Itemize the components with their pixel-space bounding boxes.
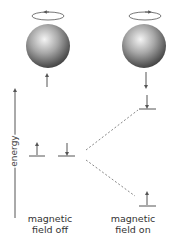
field-off-label-line2: field off — [20, 224, 80, 235]
left-sphere-group — [26, 12, 70, 87]
field-on-label-line1: magnetic — [103, 213, 163, 224]
rotation-ring-icon — [129, 12, 161, 20]
sphere-icon — [122, 24, 166, 68]
field-on-label: magnetic field on — [103, 213, 163, 235]
diagram-canvas — [0, 0, 172, 244]
split-dashed-line-down — [86, 160, 135, 196]
split-dashed-line-up — [86, 110, 138, 150]
right-sphere-group — [122, 12, 166, 87]
field-off-label-line1: magnetic — [20, 213, 80, 224]
field-off-label: magnetic field off — [20, 213, 80, 235]
field-off-levels — [29, 143, 75, 156]
field-on-levels — [139, 95, 156, 206]
energy-axis-label: energy — [9, 134, 19, 167]
sphere-icon — [26, 24, 70, 68]
field-on-label-line2: field on — [103, 224, 163, 235]
rotation-ring-icon — [32, 12, 64, 20]
